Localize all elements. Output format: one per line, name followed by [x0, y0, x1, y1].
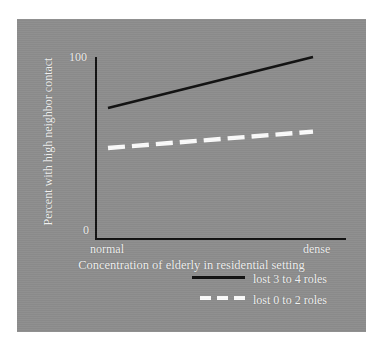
chart-legend: lost 3 to 4 roles lost 0 to 2 roles	[167, 269, 366, 311]
series-line-lost-3-to-4-roles	[108, 57, 313, 108]
figure-panel: 100 0 normal dense Percent with high nei…	[17, 19, 366, 332]
legend-item-lost-0-to-2-roles: lost 0 to 2 roles	[167, 290, 366, 311]
series-line-lost-0-to-2-roles	[108, 132, 313, 148]
legend-label-lost-0-to-2-roles: lost 0 to 2 roles	[253, 290, 327, 310]
legend-item-lost-3-to-4-roles: lost 3 to 4 roles	[167, 269, 366, 290]
legend-swatch-dashed-line-icon	[200, 296, 245, 300]
legend-swatch-solid-line-icon	[192, 276, 245, 279]
legend-label-lost-3-to-4-roles: lost 3 to 4 roles	[253, 269, 327, 289]
